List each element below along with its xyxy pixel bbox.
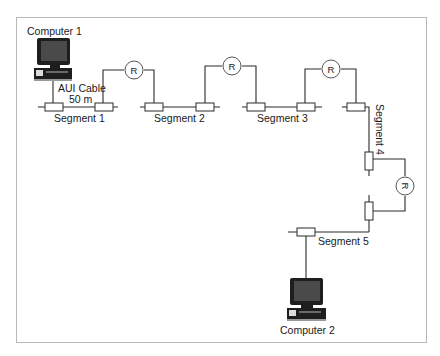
transceiver [247, 103, 265, 111]
repeater-1-label: R [131, 65, 138, 76]
segment-5-label: Segment 5 [318, 235, 369, 247]
network-diagram: Computer 1 AUI Cable 50 m Segment 1 R Se… [0, 0, 440, 356]
segment-2-label: Segment 2 [154, 112, 205, 124]
transceiver [365, 152, 373, 170]
repeater-4-label: R [400, 183, 411, 190]
transceiver [297, 228, 315, 236]
transceiver [196, 103, 214, 111]
computer-2-icon [287, 278, 326, 321]
segment-3-label: Segment 3 [257, 112, 308, 124]
transceiver [347, 103, 365, 111]
segment-1-label: Segment 1 [54, 112, 105, 124]
repeater-2-label: R [229, 61, 236, 72]
computer-1-icon [34, 38, 72, 81]
segment-4-label: Segment 4 [374, 104, 386, 155]
repeater-3-label: R [328, 64, 335, 75]
transceiver [95, 103, 113, 111]
aui-cable-length: 50 m [69, 93, 93, 105]
computer-2-label: Computer 2 [280, 324, 335, 336]
transceiver [365, 202, 373, 220]
computer-1-label: Computer 1 [27, 25, 82, 37]
transceiver [297, 103, 315, 111]
transceiver [145, 103, 163, 111]
transceiver [45, 103, 63, 111]
